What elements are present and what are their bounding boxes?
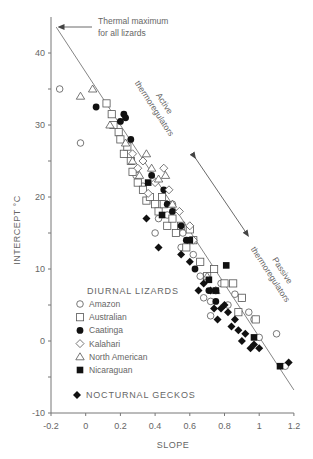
x-tick-label: -0.2 xyxy=(43,421,59,431)
annotations: Thermal maximumfor all lizardsActivether… xyxy=(61,16,295,304)
double-arrow-icon xyxy=(194,156,247,234)
legend-item-label: Australian xyxy=(89,312,127,322)
thermal-max-label: Thermal maximum xyxy=(98,16,168,26)
legend-item-label: North American xyxy=(89,352,148,362)
x-tick-label: 0.2 xyxy=(114,421,127,431)
y-tick-label: 0 xyxy=(40,336,45,346)
x-tick-label: 0.4 xyxy=(149,421,162,431)
x-tick-label: 1 xyxy=(257,421,262,431)
legend-item-label: Nicaraguan xyxy=(89,365,133,375)
thermal-max-label-line2: for all lizards xyxy=(98,28,146,38)
x-tick-label: 0 xyxy=(83,421,88,431)
y-tick-label: 40 xyxy=(35,48,45,58)
x-tick-label: 1.2 xyxy=(288,421,301,431)
x-tick-label: 0.8 xyxy=(218,421,231,431)
legend: DIURNAL LIZARDSAmazonAustralianCaatingaK… xyxy=(73,286,195,400)
legend-item-label: Caatinga xyxy=(89,325,123,335)
y-tick-label: 30 xyxy=(35,120,45,130)
scatter-chart: -0.200.20.40.60.811.2-10010203040SLOPEIN… xyxy=(0,0,313,459)
y-tick-label: 20 xyxy=(35,192,45,202)
x-tick-label: 0.6 xyxy=(184,421,197,431)
y-axis-label: INTERCEPT °C xyxy=(12,195,22,264)
y-tick-label: -10 xyxy=(32,408,45,418)
x-axis-label: SLOPE xyxy=(157,440,190,450)
y-tick-label: 10 xyxy=(35,264,45,274)
legend-item-label: Amazon xyxy=(89,299,120,309)
legend-item-label: Kalahari xyxy=(89,339,120,349)
legend-item-label: NOCTURNAL GECKOS xyxy=(86,390,195,400)
legend-title: DIURNAL LIZARDS xyxy=(87,286,179,296)
